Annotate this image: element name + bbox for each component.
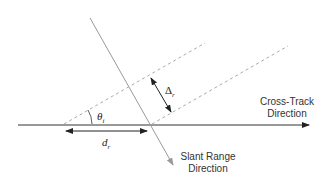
slant-range-label-line2: Direction (173, 163, 243, 175)
cross-track-label-line1: Cross-Track (252, 96, 322, 108)
diagram-canvas (0, 0, 325, 182)
slant-range-label-line1: Slant Range (173, 151, 243, 163)
cross-track-label-line2: Direction (252, 108, 322, 120)
wavefront-line-1 (64, 43, 205, 124)
slant-resolution-label: Δr (165, 84, 175, 99)
delta-subscript: r (172, 91, 175, 99)
theta-subscript: i (102, 117, 104, 125)
slant-range-direction-label: Slant Range Direction (173, 151, 243, 175)
d-subscript: r (108, 143, 111, 151)
incidence-angle-label: θi (97, 110, 104, 125)
cross-track-direction-label: Cross-Track Direction (252, 96, 322, 120)
ground-resolution-label: dr (102, 136, 110, 151)
incidence-angle-arc (88, 110, 92, 124)
